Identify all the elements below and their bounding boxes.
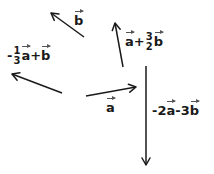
- label-b: b: [74, 14, 83, 27]
- operator: +: [30, 48, 41, 63]
- label-a-plus-three-halves-b: a+32b: [125, 32, 163, 52]
- label-neg-two-a-minus-three-b: -2a-3b: [152, 104, 199, 117]
- vector-symbol-b: b: [74, 14, 83, 27]
- vector-symbol-b: b: [154, 35, 163, 48]
- vector-symbol-a: a: [166, 104, 175, 117]
- vector-symbol-b: b: [41, 49, 50, 62]
- label-neg-third-a-plus-b: -13a+b: [7, 46, 50, 66]
- coefficient: -2: [152, 103, 166, 118]
- vector-neg-third-a-plus-b-arrow: [12, 74, 62, 93]
- vector-a-arrow: [86, 87, 136, 96]
- sign: -: [7, 48, 12, 63]
- fraction-three-halves: 32: [146, 32, 153, 52]
- vector-diagram: [0, 0, 214, 174]
- vector-symbol-a: a: [106, 101, 115, 114]
- coefficient: 3: [181, 103, 190, 118]
- vector-a-plus-three-halves-b-arrow: [115, 23, 123, 67]
- fraction-one-third: 13: [13, 46, 20, 66]
- operator: +: [134, 34, 145, 49]
- vector-symbol-a: a: [125, 35, 134, 48]
- vector-symbol-a: a: [21, 49, 30, 62]
- label-a: a: [106, 101, 115, 114]
- vector-symbol-b: b: [190, 104, 199, 117]
